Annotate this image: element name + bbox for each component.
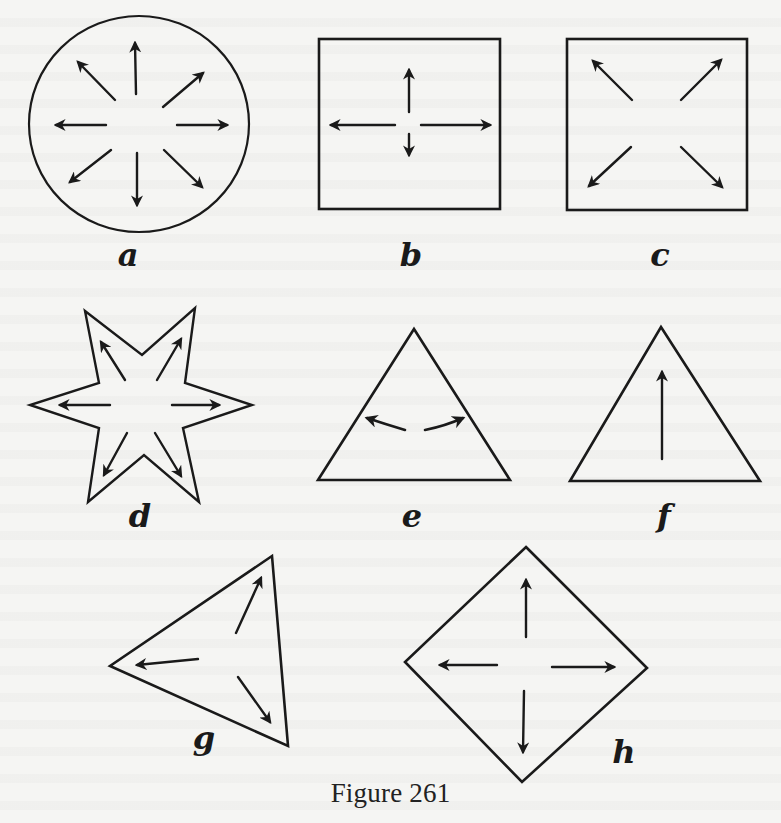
panel-label-f: f — [655, 497, 676, 535]
triangle-shape — [318, 329, 510, 480]
panel-d — [30, 308, 252, 502]
panel-e — [318, 329, 510, 480]
triangle-shape — [570, 327, 760, 481]
panel-f — [570, 327, 760, 481]
panel-b — [319, 39, 500, 209]
arrows-a — [56, 43, 227, 205]
tilted-triangle-shape — [110, 556, 288, 746]
arrows-g — [137, 578, 270, 722]
figure-caption: Figure 261 — [0, 778, 781, 809]
panel-c — [567, 39, 747, 210]
panel-label-h: h — [612, 733, 635, 771]
panel-label-b: b — [400, 236, 422, 274]
panel-label-a: a — [118, 236, 139, 274]
panel-label-e: e — [402, 497, 422, 535]
arrows-e — [367, 418, 463, 430]
panel-label-g: g — [193, 719, 215, 757]
panel-label-c: c — [650, 236, 669, 274]
arrows-b — [331, 70, 490, 155]
panel-g — [110, 556, 288, 746]
figure-diagram: a b c d e f g h — [0, 0, 781, 823]
arrows-d — [60, 339, 219, 476]
figure-page: a b c d e f g h Figure 261 — [0, 0, 781, 823]
panel-h — [405, 547, 647, 782]
panel-a — [29, 16, 249, 232]
panel-label-d: d — [129, 497, 151, 535]
arrows-c — [589, 60, 722, 187]
